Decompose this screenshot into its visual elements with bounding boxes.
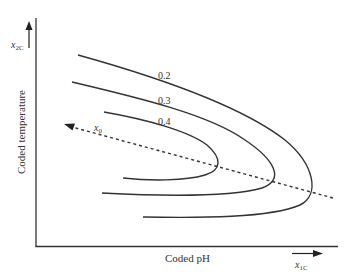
x-axis-title: Coded pH [165,252,210,264]
x-variable-label: x1C [294,259,308,272]
contour-label-0.4: 0.4 [158,116,171,127]
path-of-steepest-ascent-line [72,127,333,198]
y-variable-label: x2C [10,39,24,52]
y-axis-title: Coded temperature [15,90,27,174]
y-variable-arrow-icon [26,21,33,48]
x-variable-arrow-icon [292,250,323,257]
axes [36,18,339,247]
path-arrowhead-icon [64,124,75,131]
contour-0.3 [72,82,275,195]
contour-label-0.2: 0.2 [158,70,171,81]
contour-diagram: x2C Coded temperature Coded pH x1C 0.2 0… [0,0,348,277]
contour-label-0.3: 0.3 [158,95,171,106]
